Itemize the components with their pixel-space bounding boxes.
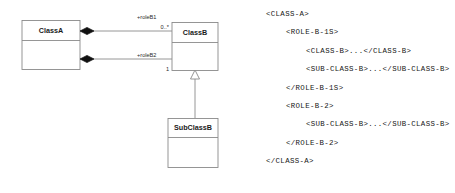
xml-listing-pane: <CLASS-A> <ROLE-B-1S> <CLASS-B>...</CLAS… [232, 0, 455, 193]
class-name-classa: ClassA [39, 26, 63, 35]
xml-code-line: </CLASS-A> [232, 152, 455, 170]
association-multiplicity-roleb2: 1 [166, 66, 169, 72]
uml-class-box-classb[interactable]: ClassB [172, 23, 218, 71]
association-role-label-roleb1: +roleB1 [137, 14, 156, 20]
composition-diamond-icon-roleb1 [80, 27, 94, 34]
xml-code-line: <ROLE-B-1S> [232, 23, 455, 41]
uml-class-diagram: ClassA ClassB SubClassB +roleB1 0..* +ro… [0, 0, 232, 193]
generalization-triangle-icon [191, 70, 200, 79]
composition-diamond-icon-roleb2 [80, 55, 94, 62]
screenshot-root: ClassA ClassB SubClassB +roleB1 0..* +ro… [0, 0, 455, 193]
association-role-label-roleb2: +roleB2 [137, 52, 156, 58]
class-name-subclassb: SubClassB [174, 123, 212, 132]
association-multiplicity-roleb1: 0..* [161, 24, 170, 30]
uml-class-box-classa[interactable]: ClassA [22, 21, 80, 70]
uml-class-box-subclassb[interactable]: SubClassB [168, 119, 218, 168]
xml-code-line: <ROLE-B-2> [232, 97, 455, 115]
uml-diagram-canvas: ClassA ClassB SubClassB +roleB1 0..* +ro… [0, 0, 232, 193]
xml-code-line: <CLASS-A> [232, 5, 455, 23]
xml-code-listing: <CLASS-A> <ROLE-B-1S> <CLASS-B>...</CLAS… [232, 5, 455, 171]
class-name-classb: ClassB [183, 28, 207, 37]
xml-code-line: </ROLE-B-2> [232, 134, 455, 152]
xml-code-line: </ROLE-B-1S> [232, 79, 455, 97]
xml-code-line: <SUB-CLASS-B>...</SUB-CLASS-B> [232, 115, 455, 133]
xml-code-line: <SUB-CLASS-B>...</SUB-CLASS-B> [232, 60, 455, 78]
xml-code-line: <CLASS-B>...</CLASS-B> [232, 42, 455, 60]
